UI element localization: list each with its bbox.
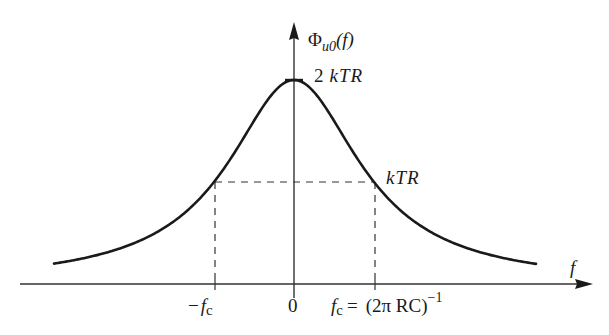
tick-label-neg-fc: −fc [188,295,213,318]
peak-label: 2kTR [314,65,363,86]
x-axis-label: f [570,257,578,278]
tick-label-zero: 0 [288,295,298,316]
y-axis-label: Φu0(f) [308,29,354,54]
tick-label-pos-fc: fc=(2π RC)−1 [331,290,442,318]
spectrum-curve [54,80,536,264]
x-axis-arrow-icon [575,279,593,289]
y-axis-arrow-icon [289,22,299,40]
spectrum-diagram: Φu0(f) 2kTR kTR f −fc 0 fc=(2π RC)−1 [0,0,609,335]
half-power-label: kTR [386,167,420,188]
cutoff-dashed-lines [215,182,375,279]
